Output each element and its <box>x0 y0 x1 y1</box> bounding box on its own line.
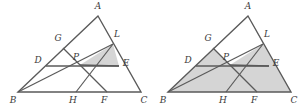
left-segment-LH <box>76 44 113 92</box>
right-label-G: G <box>204 33 211 43</box>
right-label-A: A <box>244 1 252 11</box>
left-outer-triangle-ABC <box>18 16 141 92</box>
left-label-P: P <box>72 52 80 62</box>
right-segment-PE <box>230 65 269 66</box>
right-label-D: D <box>183 55 191 65</box>
right-label-P: P <box>222 52 230 62</box>
right-label-L: L <box>263 29 270 39</box>
right-label-F: F <box>250 95 258 105</box>
left-shaded-region-PLE <box>80 44 119 66</box>
left-triangle-diagram: A B C D E F G H L P <box>9 1 148 105</box>
left-label-E: E <box>122 58 130 68</box>
left-label-D: D <box>33 55 41 65</box>
right-label-B: B <box>159 95 167 105</box>
right-label-H: H <box>218 95 227 105</box>
right-label-E: E <box>272 58 280 68</box>
left-label-F: F <box>100 95 108 105</box>
left-label-H: H <box>68 95 77 105</box>
left-label-G: G <box>54 33 61 43</box>
right-triangle-diagram: A B C D E F G H L P <box>159 1 298 105</box>
left-label-B: B <box>9 95 17 105</box>
left-label-L: L <box>113 29 120 39</box>
left-segment-PE <box>80 65 119 66</box>
right-label-C: C <box>291 95 298 105</box>
left-label-A: A <box>94 1 102 11</box>
diagram-canvas: A B C D E F G H L P <box>0 0 307 109</box>
left-label-C: C <box>141 95 148 105</box>
geometry-figure-svg: A B C D E F G H L P <box>0 0 307 109</box>
